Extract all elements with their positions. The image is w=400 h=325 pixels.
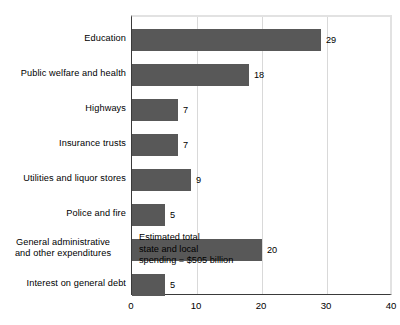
bar-chart-figure: Education Public welfare and health High… bbox=[0, 0, 400, 325]
bar-value-interest-on-general-debt: 5 bbox=[170, 274, 175, 296]
category-label-utilities-and-liquor-stores: Utilities and liquor stores bbox=[0, 173, 126, 184]
category-label-interest-on-general-debt: Interest on general debt bbox=[0, 278, 126, 289]
bar-police-and-fire bbox=[132, 204, 165, 226]
bar-value-education: 29 bbox=[326, 29, 336, 51]
category-label-column: Education Public welfare and health High… bbox=[0, 15, 126, 295]
bar-value-police-and-fire: 5 bbox=[170, 204, 175, 226]
category-label-line: General administrative bbox=[0, 237, 126, 248]
category-label-public-welfare-and-health: Public welfare and health bbox=[0, 68, 126, 79]
category-label-line: Education bbox=[84, 33, 126, 43]
bar-education bbox=[132, 29, 321, 51]
annotation-line: spending = $505 billion bbox=[139, 255, 233, 267]
category-label-line: Insurance trusts bbox=[59, 138, 126, 148]
bar-interest-on-general-debt bbox=[132, 274, 165, 296]
category-label-insurance-trusts: Insurance trusts bbox=[0, 138, 126, 149]
category-label-general-administrative-and-other-expenditures: General administrative and other expendi… bbox=[0, 237, 126, 260]
x-tick-label-30: 30 bbox=[321, 300, 332, 311]
category-label-highways: Highways bbox=[0, 103, 126, 114]
category-label-education: Education bbox=[0, 33, 126, 44]
category-label-line: Interest on general debt bbox=[27, 278, 126, 288]
bar-value-utilities-and-liquor-stores: 9 bbox=[196, 169, 201, 191]
category-label-line: Utilities and liquor stores bbox=[23, 173, 126, 183]
bar-value-highways: 7 bbox=[183, 99, 188, 121]
category-label-line: Police and fire bbox=[66, 208, 126, 218]
category-label-line: Public welfare and health bbox=[21, 68, 126, 78]
annotation-line: state and local bbox=[139, 244, 233, 256]
x-tick-label-0: 0 bbox=[128, 300, 133, 311]
gridline-20 bbox=[262, 17, 263, 294]
x-tick-label-20: 20 bbox=[256, 300, 267, 311]
category-label-line: Highways bbox=[85, 103, 126, 113]
total-spending-annotation: Estimated total state and local spending… bbox=[139, 232, 233, 267]
gridline-30 bbox=[327, 17, 328, 294]
bar-public-welfare-and-health bbox=[132, 64, 249, 86]
bar-insurance-trusts bbox=[132, 134, 178, 156]
x-axis-tick-labels: 0 10 20 30 40 bbox=[131, 297, 392, 319]
bar-value-insurance-trusts: 7 bbox=[183, 134, 188, 156]
bar-value-public-welfare-and-health: 18 bbox=[254, 64, 264, 86]
bar-utilities-and-liquor-stores bbox=[132, 169, 191, 191]
category-label-line: and other expenditures bbox=[0, 248, 126, 259]
category-label-police-and-fire: Police and fire bbox=[0, 208, 126, 219]
x-tick-label-10: 10 bbox=[191, 300, 202, 311]
x-tick-label-40: 40 bbox=[386, 300, 397, 311]
bar-highways bbox=[132, 99, 178, 121]
annotation-line: Estimated total bbox=[139, 232, 233, 244]
bar-value-general-administrative-and-other-expenditures: 20 bbox=[267, 239, 277, 261]
